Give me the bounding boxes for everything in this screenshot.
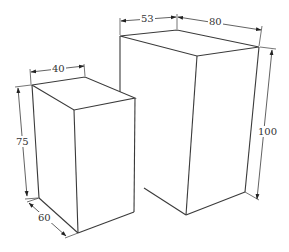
large-right-width-label: 80: [208, 16, 223, 27]
small-depth-label: 60: [37, 212, 52, 223]
small-width-label: 40: [51, 63, 66, 74]
large-box: [120, 30, 259, 215]
diagram-canvas: 40 75 60 53 80 100: [0, 0, 289, 252]
small-height-label: 75: [15, 136, 30, 147]
dim-large-height: [245, 47, 276, 200]
large-left-width-label: 53: [140, 13, 155, 24]
large-height-label: 100: [257, 126, 278, 137]
small-box: [32, 77, 135, 233]
